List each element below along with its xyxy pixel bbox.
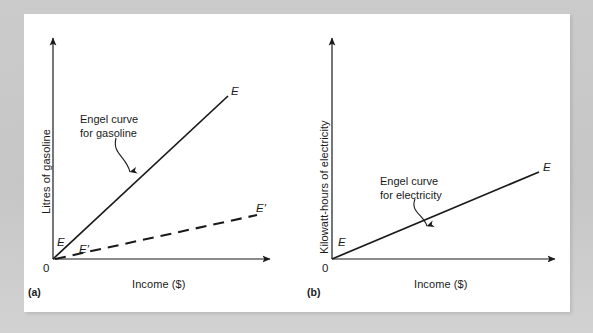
panel-a-label-E-prime-end: E′ [256, 202, 266, 214]
panel-a-label-E-start: E [57, 236, 65, 248]
panel-b-origin-label: 0 [322, 262, 328, 274]
engel-curves-figure: Litres of gasoline Income ($) 0 Engel cu… [0, 0, 593, 333]
panel-a-annotation: Engel curve for gasoline [80, 113, 138, 140]
panel-b-label-E-start: E [338, 236, 346, 248]
figure-card: Litres of gasoline Income ($) 0 Engel cu… [24, 14, 570, 312]
panel-a-label-E-end: E [231, 85, 239, 97]
panel-a-annotation-line1: Engel curve [80, 113, 138, 125]
panel-a-y-axis-label: Litres of gasoline [40, 129, 52, 214]
panel-a: Litres of gasoline Income ($) 0 Engel cu… [24, 14, 297, 312]
panel-b: Kilowatt-hours of electricity Income ($)… [297, 14, 570, 312]
panel-a-caption: (a) [28, 286, 41, 298]
panel-a-annotation-line2: for gasoline [80, 127, 137, 139]
panel-b-x-axis-label: Income ($) [414, 278, 468, 290]
panel-b-y-axis-label: Kilowatt-hours of electricity [318, 120, 330, 254]
panel-a-plot [24, 14, 297, 312]
panel-b-annotation-line1: Engel curve [380, 175, 438, 187]
panel-a-annotation-leader [115, 138, 130, 172]
panel-b-caption: (b) [307, 286, 320, 298]
panel-b-label-E-end: E [543, 161, 551, 173]
panel-b-annotation: Engel curve for electricity [380, 175, 442, 202]
panel-b-plot [297, 14, 570, 312]
panel-a-x-axis-label: Income ($) [132, 278, 186, 290]
panel-b-annotation-line2: for electricity [380, 189, 442, 201]
panel-a-label-E-prime-start: E′ [79, 243, 89, 255]
panel-a-origin-label: 0 [43, 262, 49, 274]
